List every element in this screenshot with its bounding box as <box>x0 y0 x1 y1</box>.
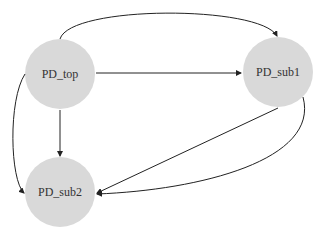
node-pd-sub1[interactable]: PD_sub1 <box>243 37 313 107</box>
node-label: PD_sub2 <box>38 185 82 199</box>
node-label: PD_sub1 <box>256 65 300 79</box>
edge-top-to-sub1-curved <box>60 13 277 39</box>
node-pd-top[interactable]: PD_top <box>25 39 95 109</box>
edge-sub1-to-sub2-straight <box>97 108 278 193</box>
edge-sub1-to-sub2-curved <box>97 97 305 194</box>
edge-top-to-sub2-curved <box>13 74 25 193</box>
graph-canvas: PD_top PD_sub1 PD_sub2 <box>0 0 323 242</box>
node-label: PD_top <box>42 67 79 81</box>
graph-svg: PD_top PD_sub1 PD_sub2 <box>0 0 323 242</box>
node-pd-sub2[interactable]: PD_sub2 <box>25 157 95 227</box>
